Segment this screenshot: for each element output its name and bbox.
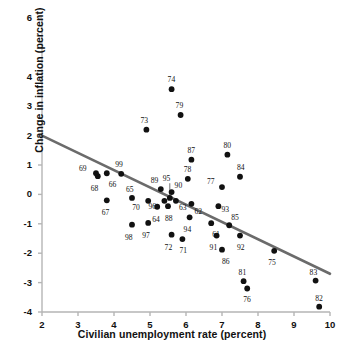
data-point xyxy=(158,186,164,192)
data-point-label: 67 xyxy=(102,208,110,217)
data-point-label: 75 xyxy=(268,258,276,267)
data-point xyxy=(271,248,277,254)
data-point xyxy=(165,203,171,209)
y-tick-label: -1 xyxy=(12,218,32,229)
data-points xyxy=(93,86,322,309)
data-point-label: 74 xyxy=(168,75,176,84)
data-point-label: 88 xyxy=(165,214,173,223)
data-point-label: 69 xyxy=(79,164,87,173)
data-point xyxy=(226,222,232,228)
x-tick-label: 4 xyxy=(106,319,122,330)
data-point-label: 92 xyxy=(237,243,245,252)
y-tick-label: 0 xyxy=(12,188,32,199)
y-tick-label: 4 xyxy=(12,71,32,82)
y-tick-label: 1 xyxy=(12,159,32,170)
data-point-label: 76 xyxy=(243,295,251,304)
data-point xyxy=(104,170,110,176)
data-point-label: 80 xyxy=(223,141,231,150)
x-tick-label: 10 xyxy=(322,319,338,330)
data-point xyxy=(237,233,243,239)
y-tick-label: 3 xyxy=(12,100,32,111)
data-point-label: 62 xyxy=(194,207,202,216)
y-axis-title: Change in inflation (percent) xyxy=(33,0,45,175)
data-point xyxy=(185,176,191,182)
data-point-label: 68 xyxy=(91,184,99,193)
data-point xyxy=(225,152,231,158)
data-point-label: 89 xyxy=(151,176,159,185)
data-point xyxy=(104,197,110,203)
data-point-label: 63 xyxy=(179,203,187,212)
data-point-label: 78 xyxy=(184,165,192,174)
data-point-label: 85 xyxy=(231,213,239,222)
x-tick-label: 2 xyxy=(34,319,50,330)
data-point-label: 96 xyxy=(148,202,156,211)
x-tick-label: 9 xyxy=(286,319,302,330)
data-point xyxy=(145,220,151,226)
y-tick-label: -3 xyxy=(12,277,32,288)
x-tick-label: 7 xyxy=(214,319,230,330)
data-point-label: 65 xyxy=(126,185,134,194)
data-point-label: 73 xyxy=(140,116,148,125)
data-point xyxy=(244,286,250,292)
x-tick-label: 6 xyxy=(178,319,194,330)
x-tick-label: 3 xyxy=(70,319,86,330)
x-tick-label: 8 xyxy=(250,319,266,330)
y-tick-label: -2 xyxy=(12,247,32,258)
data-point xyxy=(162,198,168,204)
phillips-curve-scatter-chart: Change in inflation (percent) Civilian u… xyxy=(0,0,344,349)
data-point xyxy=(129,195,135,201)
y-tick-label: -4 xyxy=(12,306,32,317)
data-point-label: 84 xyxy=(237,163,245,172)
data-point-label: 91 xyxy=(210,243,218,252)
data-point-label: 61 xyxy=(212,230,220,239)
data-point xyxy=(178,112,184,118)
data-point xyxy=(313,278,319,284)
data-point-label: 72 xyxy=(165,243,173,252)
data-point-label: 77 xyxy=(207,177,215,186)
data-point xyxy=(169,86,175,92)
data-point-label: 71 xyxy=(179,246,187,255)
data-point-label: 82 xyxy=(315,294,323,303)
data-point-label: 79 xyxy=(176,101,184,110)
y-tick-label: 2 xyxy=(12,130,32,141)
plot-canvas xyxy=(0,0,344,349)
data-point xyxy=(129,222,135,228)
data-point xyxy=(144,127,150,133)
data-point-label: 66 xyxy=(109,180,117,189)
data-point-label: 81 xyxy=(239,268,247,277)
data-point-label: 94 xyxy=(184,225,192,234)
data-point-label: 93 xyxy=(221,205,229,214)
x-tick-label: 5 xyxy=(142,319,158,330)
data-point xyxy=(180,236,186,242)
data-point xyxy=(241,278,247,284)
data-point xyxy=(189,157,195,163)
data-point xyxy=(187,214,193,220)
data-point-label: 64 xyxy=(152,215,160,224)
data-point-label: 99 xyxy=(115,160,123,169)
data-point xyxy=(118,171,124,177)
data-point xyxy=(208,220,214,226)
data-point xyxy=(167,195,173,201)
data-point xyxy=(219,247,225,253)
data-point-label: 98 xyxy=(125,233,133,242)
data-point-label: 87 xyxy=(187,146,195,155)
data-point-label: 97 xyxy=(142,231,150,240)
data-point xyxy=(169,232,175,238)
data-point-label: 83 xyxy=(310,268,318,277)
y-tick-label: 6 xyxy=(12,12,32,23)
data-point xyxy=(219,184,225,190)
data-point-label: 90 xyxy=(175,181,183,190)
data-point xyxy=(316,304,322,310)
data-point-label: 86 xyxy=(222,257,230,266)
data-point xyxy=(237,174,243,180)
data-point-label: 70 xyxy=(132,203,140,212)
data-point-label: 95 xyxy=(163,174,171,183)
data-point xyxy=(93,170,99,176)
